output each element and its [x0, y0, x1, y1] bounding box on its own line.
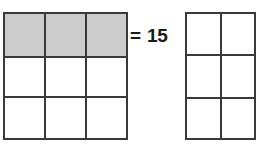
diagram-canvas: = 15 — [0, 0, 264, 150]
left-grid-cell-r1c3 — [87, 14, 126, 56]
right-grid-cell-r3c2 — [222, 99, 255, 138]
left-grid-cell-r2c3 — [87, 58, 126, 96]
right-grid-cell-r3c1 — [187, 99, 220, 138]
equation-value: 15 — [147, 26, 167, 45]
equals-sign: = — [130, 26, 141, 45]
right-grid-cell-r2c1 — [187, 56, 220, 96]
left-grid-cell-r3c3 — [87, 98, 126, 138]
left-grid-cell-r3c2 — [46, 98, 85, 138]
left-grid-cell-r1c1 — [5, 14, 44, 56]
equation-label: = 15 — [130, 22, 180, 48]
left-grid — [3, 12, 128, 140]
left-grid-cell-r2c1 — [5, 58, 44, 96]
left-grid-cell-r3c1 — [5, 98, 44, 138]
left-grid-cell-r2c2 — [46, 58, 85, 96]
right-grid — [185, 12, 256, 140]
right-grid-cell-r2c2 — [222, 56, 255, 96]
right-grid-cell-r1c2 — [222, 14, 255, 54]
left-grid-cell-r1c2 — [46, 14, 85, 56]
right-grid-cell-r1c1 — [187, 14, 220, 54]
